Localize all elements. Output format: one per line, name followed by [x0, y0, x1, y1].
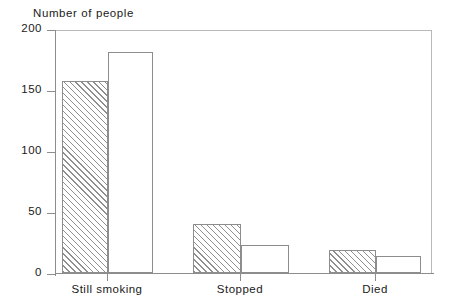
chart-title: Number of people [33, 7, 134, 19]
y-tick-label-150: 150 [21, 83, 42, 95]
bar-died-series-2 [376, 256, 421, 273]
y-tick-mark-0 [47, 274, 55, 275]
bar-stopped-series-2 [241, 245, 289, 273]
y-tick-label-200: 200 [21, 22, 42, 34]
plot-area [55, 30, 432, 274]
y-tick-mark-50 [47, 213, 55, 214]
y-tick-label-100: 100 [21, 144, 42, 156]
bar-chart-figure: Number of people 0 50 100 150 200 Still … [0, 0, 451, 308]
x-category-label-still-smoking: Still smoking [71, 283, 142, 295]
bar-stopped-series-1 [193, 224, 241, 273]
bar-still-smoking-series-1 [62, 81, 108, 273]
y-tick-mark-100 [47, 152, 55, 153]
y-tick-mark-150 [47, 91, 55, 92]
bar-died-series-1 [329, 250, 376, 273]
x-category-label-died: Died [362, 283, 388, 295]
x-tick-mark-stopped [240, 274, 241, 281]
x-tick-mark-died [375, 274, 376, 281]
x-category-label-stopped: Stopped [217, 283, 263, 295]
bar-still-smoking-series-2 [108, 52, 153, 273]
x-tick-mark-still-smoking [107, 274, 108, 281]
y-tick-mark-200 [47, 30, 55, 31]
y-tick-label-50: 50 [28, 205, 42, 217]
y-tick-label-0: 0 [35, 266, 42, 278]
